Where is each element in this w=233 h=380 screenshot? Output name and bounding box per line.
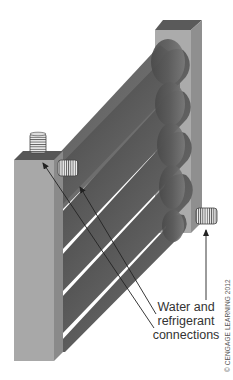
label-line-3: connections xyxy=(148,328,224,342)
left-header-side xyxy=(54,151,63,361)
connector-side xyxy=(58,160,78,176)
connections-label: Water and refrigerant connections xyxy=(148,300,224,342)
left-header-front xyxy=(14,160,54,361)
label-line-1: Water and xyxy=(148,300,224,314)
connector-top xyxy=(30,132,46,153)
connector-right xyxy=(196,208,217,224)
right-header-side xyxy=(191,20,202,233)
label-line-2: refrigerant xyxy=(148,314,224,328)
copyright-notice: © CENGAGE LEARNING 2012 xyxy=(224,279,231,372)
